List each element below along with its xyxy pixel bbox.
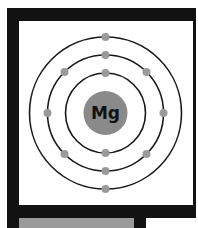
electron [143, 68, 151, 76]
electron [61, 150, 69, 158]
electron [61, 68, 69, 76]
atom-diagram: Mg [0, 0, 198, 228]
electron [160, 109, 168, 117]
electron [102, 185, 110, 193]
electron [143, 150, 151, 158]
electron [102, 51, 110, 59]
electron [102, 167, 110, 175]
electron [102, 69, 110, 77]
element-symbol: Mg [91, 103, 120, 123]
electron [44, 109, 52, 117]
electron [102, 149, 110, 157]
electron [102, 33, 110, 41]
